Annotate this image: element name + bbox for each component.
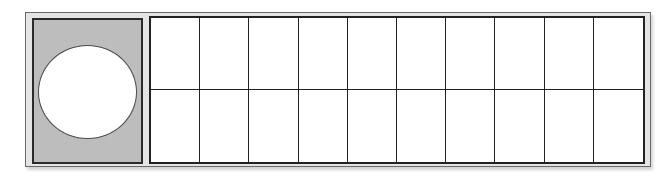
grid-cell bbox=[594, 18, 643, 90]
grid-cell bbox=[446, 18, 495, 90]
grid-cell bbox=[594, 90, 643, 162]
grid-cell bbox=[495, 18, 544, 90]
grid-cell bbox=[200, 90, 249, 162]
grid-cell bbox=[397, 90, 446, 162]
grid-cell bbox=[397, 18, 446, 90]
grid-cell bbox=[545, 18, 594, 90]
circle-shape bbox=[38, 45, 137, 139]
grid-cell bbox=[348, 90, 397, 162]
grid-cell bbox=[249, 90, 298, 162]
grid-cell bbox=[249, 18, 298, 90]
grid-cell bbox=[446, 90, 495, 162]
grid-cell bbox=[495, 90, 544, 162]
grid-cell bbox=[348, 18, 397, 90]
cell-grid bbox=[149, 16, 645, 164]
grid-cell bbox=[299, 18, 348, 90]
grid-cell bbox=[200, 18, 249, 90]
grid-cell bbox=[299, 90, 348, 162]
grid-cell bbox=[151, 90, 200, 162]
grid-cell bbox=[545, 90, 594, 162]
grid-cell bbox=[151, 18, 200, 90]
